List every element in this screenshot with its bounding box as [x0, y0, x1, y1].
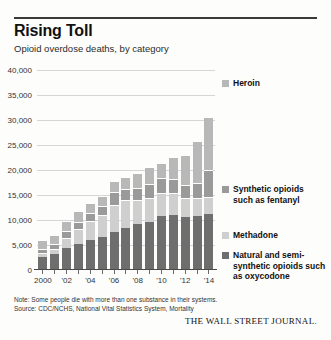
bar-segment [181, 185, 190, 198]
bar-segment [86, 240, 95, 270]
x-axis-tick [102, 270, 103, 274]
stacked-bar[interactable] [133, 173, 142, 270]
stacked-bar[interactable] [86, 203, 95, 271]
bar-segment [193, 183, 202, 199]
x-label-slot [144, 276, 156, 290]
tick-slot [179, 270, 191, 275]
legend-swatch [222, 186, 229, 193]
legend-swatch [222, 80, 229, 87]
bar-slot [84, 70, 96, 270]
y-axis-tick-label: 15,000 [8, 191, 32, 200]
x-axis-tick-label: '02 [61, 276, 71, 285]
x-axis-tick-label: '12 [180, 276, 190, 285]
bar-segment [169, 193, 178, 215]
bar-slot [156, 70, 168, 270]
tick-slot [167, 270, 179, 275]
stacked-bar[interactable] [204, 117, 213, 270]
bar-segment [204, 117, 213, 170]
bar-segment [181, 217, 190, 270]
x-axis-tick-label: '04 [85, 276, 95, 285]
stacked-bar[interactable] [121, 177, 130, 270]
bar-slot [108, 70, 120, 270]
stacked-bar[interactable] [157, 163, 166, 271]
bar-segment [181, 155, 190, 185]
x-label-slot [191, 276, 203, 290]
bar-segment [38, 240, 47, 249]
tick-slot [49, 270, 61, 275]
y-axis-tick-label: 40,000 [8, 66, 32, 75]
x-axis-tick [114, 270, 115, 274]
bar-segment [98, 237, 107, 271]
legend-item[interactable]: Synthetic opioids such as fentanyl [222, 184, 326, 205]
tick-slot [120, 270, 132, 275]
bar-segment [110, 232, 119, 270]
bar-segment [121, 228, 130, 271]
bar-slot [167, 70, 179, 270]
legend-label: Natural and semi-synthetic opioids such … [233, 250, 326, 282]
bar-segment [193, 198, 202, 216]
bar-slot [144, 70, 156, 270]
bar-slot [37, 70, 49, 270]
x-label-slot: '12 [179, 276, 191, 290]
stacked-bar[interactable] [169, 157, 178, 270]
x-axis-tick [125, 270, 126, 274]
stacked-bar[interactable] [145, 167, 154, 270]
x-label-slot: '06 [108, 276, 120, 290]
bar-segment [74, 211, 83, 222]
stacked-bar[interactable] [110, 181, 119, 270]
x-label-slot: '14 [203, 276, 215, 290]
x-label-slot [167, 276, 179, 290]
footnote-source: Source: CDC/NCHS, National Vital Statist… [14, 305, 194, 312]
tick-slot [37, 270, 49, 275]
bar-series-group [37, 70, 215, 270]
bar-segment [74, 229, 83, 244]
bar-segment [133, 200, 142, 225]
bar-segment [145, 198, 154, 222]
header-rule [14, 17, 317, 19]
legend-label: Methadone [233, 230, 278, 241]
bar-segment [204, 197, 213, 214]
stacked-bar[interactable] [181, 155, 190, 270]
bar-segment [193, 141, 202, 183]
legend-item[interactable]: Methadone [222, 230, 326, 241]
stacked-bar[interactable] [50, 235, 59, 270]
tick-slot [156, 270, 168, 275]
x-axis-ticks [37, 270, 215, 275]
bar-segment [50, 254, 59, 270]
bar-segment [181, 198, 190, 218]
bar-segment [145, 167, 154, 184]
bar-segment [98, 206, 107, 215]
stacked-bar[interactable] [62, 221, 71, 271]
x-axis-tick-label: '10 [156, 276, 166, 285]
bar-segment [38, 257, 47, 271]
legend-swatch [222, 232, 229, 239]
bar-segment [133, 224, 142, 270]
legend-item[interactable]: Heroin [222, 78, 326, 89]
x-axis-tick [137, 270, 138, 274]
legend-item[interactable]: Natural and semi-synthetic opioids such … [222, 250, 326, 282]
wsj-attribution: THE WALL STREET JOURNAL. [185, 316, 317, 326]
x-axis-tick [173, 270, 174, 274]
bar-segment [98, 196, 107, 206]
x-axis-tick-label: '08 [133, 276, 143, 285]
tick-slot [73, 270, 85, 275]
stacked-bar[interactable] [74, 211, 83, 270]
stacked-bar[interactable] [193, 141, 202, 270]
tick-slot [203, 270, 215, 275]
bar-slot [203, 70, 215, 270]
bar-segment [50, 235, 59, 244]
x-axis-tick-label: '06 [109, 276, 119, 285]
y-axis-tick-label: 30,000 [8, 116, 32, 125]
bar-segment [62, 221, 71, 232]
bar-segment [121, 189, 130, 200]
x-label-slot [120, 276, 132, 290]
x-axis-tick [197, 270, 198, 274]
stacked-bar[interactable] [38, 240, 47, 270]
x-axis-labels: 2000'02'04'06'08'10'12'14 [37, 276, 215, 290]
x-label-slot: '10 [156, 276, 168, 290]
x-label-slot [96, 276, 108, 290]
stacked-bar[interactable] [98, 196, 107, 270]
bar-segment [86, 203, 95, 213]
x-label-slot [73, 276, 85, 290]
bar-slot [191, 70, 203, 270]
